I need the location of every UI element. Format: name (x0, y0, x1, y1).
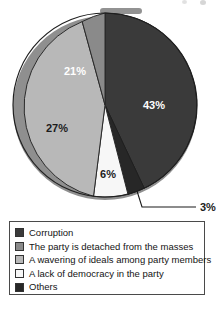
legend-label: Corruption (29, 228, 73, 238)
slice-label-others: 3% (200, 201, 216, 213)
legend-item-others[interactable]: Others (15, 280, 204, 294)
slice-label-democracy: 6% (100, 168, 116, 180)
legend-swatch-icon (15, 255, 24, 264)
legend-label: The party is detached from the masses (29, 242, 193, 252)
chart-canvas: 43% 21% 27% 6% 3% Corruption The party i… (0, 0, 218, 310)
pie-chart: 43% 21% 27% 6% 3% (11, 11, 201, 201)
legend-item-corruption[interactable]: Corruption (15, 226, 204, 240)
slice-label-wavering: 27% (46, 122, 68, 134)
clipped-artifact (200, 0, 206, 5)
legend-swatch-icon (15, 242, 24, 251)
callout-leader-line (137, 191, 196, 207)
legend-item-democracy[interactable]: A lack of democracy in the party (15, 267, 204, 281)
clipped-artifact (182, 0, 187, 4)
legend-item-detached[interactable]: The party is detached from the masses (15, 240, 204, 254)
legend: Corruption The party is detached from th… (9, 221, 205, 295)
legend-label: A lack of democracy in the party (29, 269, 164, 279)
slice-label-corruption: 43% (143, 99, 165, 111)
legend-label: A wavering of ideals among party members (29, 255, 211, 265)
pie-svg: 43% 21% 27% 6% 3% (11, 11, 201, 201)
legend-label: Others (29, 282, 58, 292)
legend-swatch-icon (15, 228, 24, 237)
legend-swatch-icon (15, 283, 24, 292)
slice-label-detached: 21% (64, 65, 86, 77)
legend-item-wavering[interactable]: A wavering of ideals among party members (15, 253, 204, 267)
legend-swatch-icon (15, 269, 24, 278)
